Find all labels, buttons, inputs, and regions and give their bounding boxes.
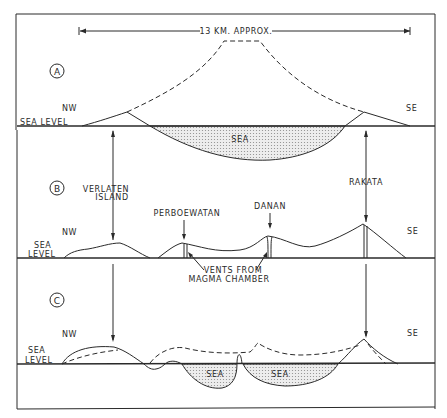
panel-c-se: SE (407, 329, 418, 338)
verlaten-label-2: ISLAND (95, 193, 128, 202)
panel-c-sea-left-label: SEA (206, 370, 223, 379)
panel-b-se: SE (407, 227, 418, 236)
panel-a-se: SE (406, 104, 417, 113)
danan-label: DANAN (254, 202, 286, 211)
panel-c-id: C (54, 296, 60, 306)
vents-label-1: VENTS FROM (204, 266, 262, 275)
panel-a-id: A (54, 67, 61, 77)
panel-b-nw: NW (62, 228, 77, 237)
panel-a-sea-label: SEA (231, 135, 248, 144)
panel-b-sea-level-1: SEA (34, 241, 51, 250)
panel-c-sea-right (243, 364, 338, 386)
krakatoa-diagram: 13 KM. APPROX. A NW SE SEA LEVEL SEA B V… (0, 0, 447, 418)
perboewatan-label: PERBOEWATAN (154, 209, 221, 218)
scale-bar: 13 KM. APPROX. (79, 27, 410, 36)
panel-c-sea-level-1: SEA (28, 346, 45, 355)
panel-b: B VERLATEN ISLAND RAKATA PERBOEWATAN DAN… (17, 178, 435, 284)
panel-a: A NW SE SEA LEVEL SEA (17, 41, 435, 160)
connector-rakata (364, 130, 368, 222)
vents-label-2: MAGMA CHAMBER (188, 275, 269, 284)
panel-c-nw: NW (62, 330, 77, 339)
panel-b-id: B (54, 184, 60, 194)
frame (16, 14, 435, 409)
panel-c: C NW SE SEA LEVEL SEA SEA (17, 293, 435, 388)
scale-label: 13 KM. APPROX. (200, 27, 273, 36)
panel-c-sea-right-label: SEA (271, 370, 288, 379)
rakata-label: RAKATA (349, 178, 383, 187)
panel-a-nw: NW (62, 104, 77, 113)
